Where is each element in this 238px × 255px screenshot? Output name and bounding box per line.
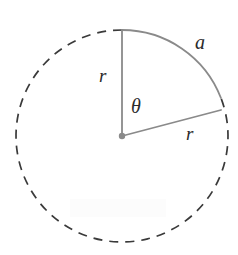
label-angle-theta: θ bbox=[131, 96, 141, 116]
label-radius-radial: r bbox=[186, 124, 193, 143]
label-arc-length-a: a bbox=[195, 32, 205, 52]
center-point-dot bbox=[119, 133, 125, 139]
solid-arc-a bbox=[122, 30, 221, 98]
label-radius-vertical: r bbox=[99, 66, 106, 85]
circle-sector-diagram: r r θ a bbox=[0, 0, 238, 255]
